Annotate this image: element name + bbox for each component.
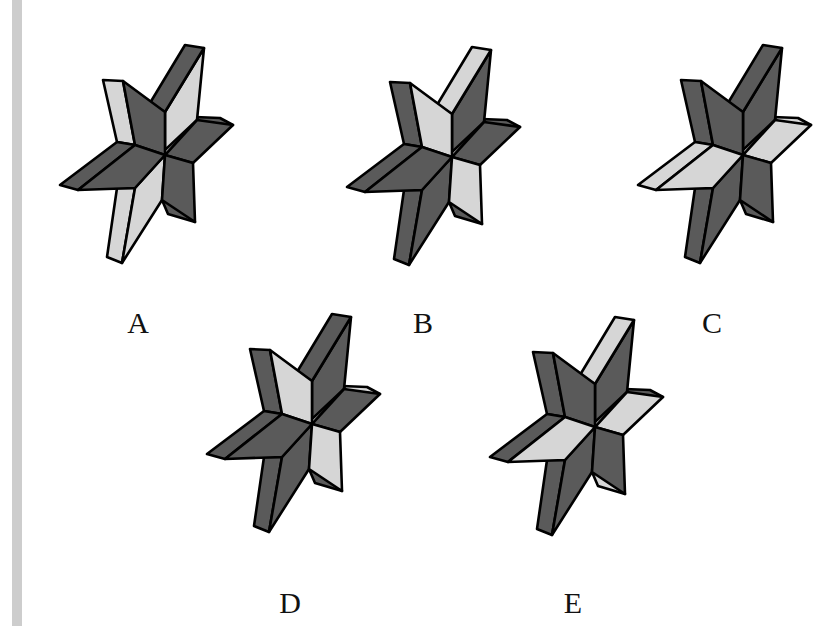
- option-label-a: A: [127, 308, 149, 338]
- option-label-e: E: [564, 588, 582, 618]
- option-label-c: C: [702, 308, 722, 338]
- star-option-a[interactable]: [60, 45, 233, 263]
- option-label-b: B: [413, 308, 433, 338]
- star-option-c[interactable]: [638, 45, 811, 263]
- option-label-d: D: [279, 588, 301, 618]
- star-option-d[interactable]: [207, 314, 380, 532]
- star-option-b[interactable]: [347, 47, 520, 265]
- star-option-e[interactable]: [490, 317, 663, 535]
